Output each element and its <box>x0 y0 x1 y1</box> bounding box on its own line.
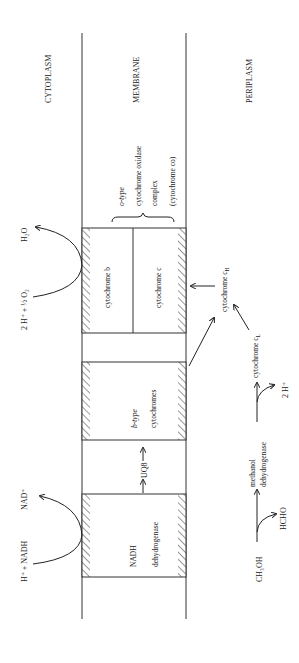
water-product: H₂O <box>20 227 29 242</box>
b-type-to-cyt-ch-arrow <box>189 318 214 366</box>
cytochrome-b-label: cytochrome b <box>103 267 112 308</box>
svg-text:(cytochrome co): (cytochrome co) <box>168 156 177 206</box>
svg-text:cytochrome oxidase: cytochrome oxidase <box>134 145 143 206</box>
membrane-label: MEMBRANE <box>132 57 141 103</box>
nad-product: NAD⁺ <box>20 489 29 510</box>
cytochrome-c-label: cytochrome c <box>154 267 163 308</box>
ubiquinone-label: UQ8 <box>140 462 149 478</box>
methanol-dehydrogenase-label: dehydrogenase <box>259 441 268 487</box>
nadh-hatch-right <box>178 494 186 577</box>
formaldehyde-release-arrow <box>257 514 276 532</box>
b-type-hatch-left <box>82 362 90 440</box>
dehydrogenase-label: dehydrogenase <box>151 521 160 567</box>
oxidase-box <box>82 228 186 333</box>
svg-text:o-type: o-type <box>117 187 126 206</box>
oxidase-hatch-left <box>82 228 90 333</box>
oxidase-hatch-right <box>178 228 186 333</box>
methanol-label: CH₃OH <box>255 556 264 582</box>
cytoplasm-label: CYTOPLASM <box>44 55 53 103</box>
methanol-enzyme-label: methanol <box>248 459 257 487</box>
b-type-cytochromes-label: cytochromes <box>149 390 158 428</box>
protons-label: 2 H⁺ <box>281 382 290 398</box>
cytochrome-ch-label: cytochrome cH <box>220 267 230 312</box>
oxidase-complex-label: o-type cytochrome oxidase complex (cytoc… <box>117 145 177 206</box>
svg-text:complex: complex <box>150 180 159 206</box>
formaldehyde-label: HCHO <box>279 507 288 530</box>
nadh-hatch-left <box>82 494 90 577</box>
nadh-label: NADH <box>129 545 138 567</box>
periplasm-label: PERIPLASM <box>245 59 254 103</box>
proton-release-arrow <box>257 385 274 402</box>
oxygen-reduction-arrow <box>33 227 82 297</box>
cyt-cl-to-cyt-ch-arrow <box>234 305 249 330</box>
b-type-hatch-right <box>178 362 186 440</box>
cytochrome-cl-label: cytochrome cL <box>251 333 261 378</box>
nadh-reactant: H⁺ + NADH <box>20 540 29 582</box>
b-type-label: b-type <box>130 409 139 428</box>
oxygen-reactant: 2 H⁺ + ½ O₂ <box>20 289 29 330</box>
respiratory-chain-diagram: CYTOPLASM MEMBRANE PERIPLASM o-type cyto… <box>0 0 299 663</box>
brace-icon <box>112 213 174 222</box>
nadh-oxidation-arrow <box>33 496 82 564</box>
